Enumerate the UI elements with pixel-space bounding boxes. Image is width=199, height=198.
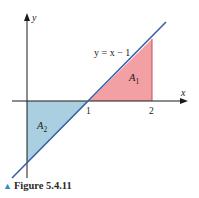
y-axis-label: y <box>31 12 37 23</box>
x-axis-label: x <box>180 87 186 98</box>
caption-text: Figure 5.4.11 <box>14 180 72 191</box>
curve-label: y = x − 1 <box>94 47 130 58</box>
caption-triangle-icon: ▲ <box>3 181 12 191</box>
x-axis-arrow-icon <box>180 98 188 104</box>
figure-caption: ▲Figure 5.4.11 <box>3 180 72 191</box>
y-axis-arrow-icon <box>24 13 30 21</box>
figure-canvas: y x 1 2 y = x − 1 A1 A2 <box>0 0 199 198</box>
x-tick-2: 2 <box>149 106 154 116</box>
x-tick-1: 1 <box>86 106 91 116</box>
